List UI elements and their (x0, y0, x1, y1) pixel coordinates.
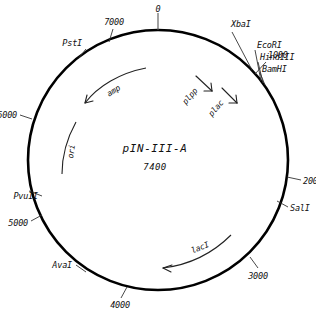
tick-line-3000 (250, 257, 258, 268)
feature-plpp: plpp (180, 76, 212, 107)
leader-line-xbai (232, 32, 252, 70)
tick-label-4000: 4000 (110, 300, 130, 310)
feature-label-plpp: plpp (180, 86, 200, 107)
feature-amp: amp (85, 68, 146, 103)
tick-line-2000 (287, 177, 301, 180)
tick-line-6000 (20, 115, 32, 119)
feature-plac: plac (206, 88, 237, 119)
plasmid-backbone-circle (28, 30, 288, 290)
plasmid-map: 0 1000 2000 3000 4000 5000 6000 7000 Xba… (0, 0, 316, 312)
tick-label-0: 0 (156, 4, 161, 14)
plasmid-size-label: 7400 (143, 162, 166, 172)
tick-line-4000 (121, 287, 127, 298)
site-label-xbai: XbaI (230, 19, 251, 29)
feature-label-plac: plac (206, 98, 226, 119)
site-label-ecori: EcoRI (257, 40, 282, 50)
feature-lacI: lacI (163, 235, 231, 272)
site-label-pvuii: PvuII (13, 191, 38, 201)
tick-label-2000: 2000 (303, 176, 316, 186)
site-label-sali: SalI (290, 203, 310, 213)
site-label-bamhi: BamHI (262, 64, 287, 74)
feature-ori: ori (62, 122, 77, 174)
tick-label-3000: 3000 (247, 271, 268, 281)
tick-label-7000: 7000 (104, 17, 124, 27)
plasmid-name-label: pIN-III-A (121, 142, 187, 155)
site-label-hindiii: HindIII (259, 52, 295, 62)
site-label-psti: PstI (62, 38, 82, 48)
feature-label-ori: ori (66, 144, 77, 159)
tick-label-6000: 6000 (0, 110, 17, 120)
site-label-avai: AvaI (51, 260, 72, 270)
tick-label-5000: 5000 (8, 218, 28, 228)
feature-label-amp: amp (105, 83, 122, 98)
